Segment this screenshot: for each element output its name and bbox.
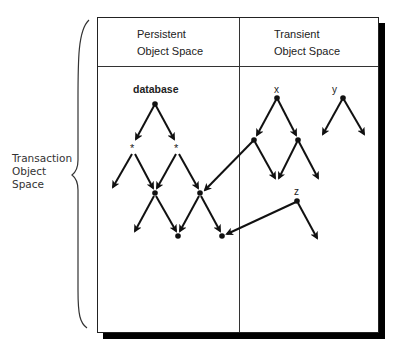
edge-xright-dangling-right (299, 142, 318, 178)
edge-db-starleft (136, 104, 155, 139)
edge-midleft-botleft (156, 196, 176, 231)
edge-xright-dangling-left (279, 142, 297, 178)
node-bot-left (175, 233, 181, 239)
edge-midright-botright (201, 196, 220, 231)
node-database (152, 101, 158, 107)
node-mid-left (152, 190, 158, 196)
edge-starright-midright (179, 154, 198, 188)
edge-x-xleft (257, 98, 277, 135)
edge-db-starright (155, 104, 174, 139)
edge-starleft-midleft (135, 154, 153, 188)
node-x (274, 95, 280, 101)
edge-midleft-dangling (135, 196, 154, 231)
node-x-right (295, 137, 301, 143)
edge-starleft-dangling (113, 154, 132, 187)
edge-xleft-midright (205, 141, 253, 190)
edges (113, 98, 364, 238)
edge-starright-midleft (157, 154, 176, 188)
edge-y-left (323, 98, 343, 134)
graph-svg (0, 0, 397, 349)
edge-z-botright (227, 202, 296, 234)
node-z (294, 198, 300, 204)
edge-z-dangling (298, 203, 317, 238)
brace-icon (72, 20, 89, 328)
node-bot-right (219, 233, 225, 239)
edge-midright-botleft (180, 196, 199, 231)
node-x-left (251, 137, 257, 143)
nodes (152, 95, 346, 239)
diagram-canvas: Persistent Object Space Transient Object… (0, 0, 397, 349)
edge-xleft-dangling (255, 142, 275, 178)
edge-y-right (343, 98, 364, 134)
edge-x-xright (277, 98, 296, 135)
node-y (340, 95, 346, 101)
node-mid-right (197, 190, 203, 196)
